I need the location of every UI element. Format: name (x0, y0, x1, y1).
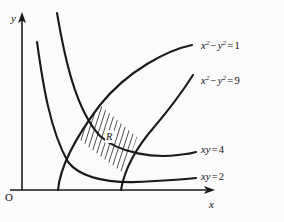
y-axis-label: y (11, 12, 16, 24)
x-axis-label: x (209, 198, 214, 210)
y-axis (18, 12, 26, 190)
curve-label-xy-4: xy=4 (201, 144, 224, 155)
figure-canvas (0, 0, 284, 222)
origin-label: O (5, 191, 13, 203)
curve-label-xy-2: xy=2 (201, 171, 224, 182)
curve-label-hyperbola-1: x2−y2=1 (201, 40, 240, 51)
curve-label-hyperbola-9: x2−y2=9 (201, 75, 240, 86)
region-label: R (105, 130, 114, 143)
figure-container: x2−y2=1 x2−y2=9 xy=4 xy=2 x y O R (0, 0, 284, 222)
x-axis (10, 186, 215, 194)
curve-hyperbola-1 (58, 45, 192, 190)
